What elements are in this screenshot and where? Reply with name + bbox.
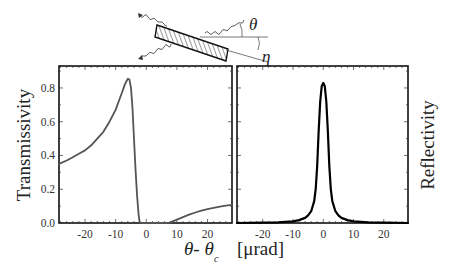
transmissivity-axis-title: Transmissivity <box>13 88 34 201</box>
theta-arc <box>240 24 242 37</box>
x-tick-label: -20 <box>77 228 93 240</box>
reflected-wave-icon <box>140 15 167 27</box>
incident-wave-icon <box>205 20 244 35</box>
y-tick-label: 0.8 <box>41 82 56 94</box>
plot-frame <box>237 66 408 223</box>
y-tick-label: 0.6 <box>41 116 56 128</box>
x-axis-variable: θ- θ <box>184 238 214 259</box>
theta-label: θ <box>249 15 257 34</box>
figure: θ η -20-10010200.00.20.40.60.8 -20-10010… <box>0 0 450 278</box>
x-tick-label: 0 <box>143 228 149 240</box>
x-axis-unit: [μrad] <box>237 238 284 259</box>
y-tick-label: 0.4 <box>41 149 56 161</box>
eta-arc <box>258 37 260 50</box>
x-tick-label: 20 <box>378 228 390 240</box>
x-tick-label: 0 <box>320 228 326 240</box>
y-tick-label: 0.2 <box>41 183 56 195</box>
transmissivity-plot: -20-10010200.00.20.40.60.8 <box>41 66 232 240</box>
y-tick-label: 0.0 <box>41 217 56 229</box>
x-tick-label: 10 <box>348 228 360 240</box>
eta-label: η <box>262 47 270 66</box>
crystal-schematic: θ η <box>138 13 270 66</box>
x-tick-label: -10 <box>285 228 301 240</box>
reflectivity-plot: -20-1001020 <box>237 66 408 240</box>
plot-frame <box>59 66 232 223</box>
crystal-slab-icon <box>155 25 228 61</box>
x-tick-label: 10 <box>171 228 183 240</box>
transmitted-wave-icon <box>140 44 171 58</box>
x-axis-subscript: c <box>214 253 219 264</box>
reflectivity-axis-title: Reflectivity <box>417 100 438 190</box>
x-tick-label: -10 <box>108 228 124 240</box>
x-axis-title: θ- θ c [μrad] <box>184 238 284 264</box>
